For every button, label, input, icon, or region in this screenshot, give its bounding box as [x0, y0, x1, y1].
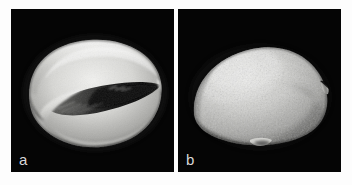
figure-plate: a: [0, 0, 352, 185]
panel-a-label: a: [19, 152, 28, 167]
shell-ventral-graphic: [11, 9, 174, 172]
panel-b: b: [178, 9, 341, 172]
panel-a: a: [11, 9, 174, 172]
specimen-image-a: [11, 9, 174, 172]
panel-b-label: b: [186, 152, 195, 167]
specimen-image-b: [178, 9, 341, 172]
shell-dorsal-graphic: [178, 9, 341, 172]
